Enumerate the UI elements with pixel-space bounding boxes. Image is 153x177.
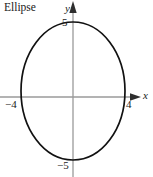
y-axis-tick-label-positive: 5: [62, 17, 68, 28]
x-axis-tick-label-positive: 4: [126, 99, 132, 110]
x-axis-tick-label-negative: −4: [5, 99, 17, 110]
y-axis-label: y: [65, 3, 70, 14]
y-axis-tick-label-negative: −5: [57, 160, 69, 171]
plot-canvas: [0, 0, 153, 177]
ellipse-figure: Ellipse y x 5 −5 −4 4: [0, 0, 153, 177]
x-axis-label: x: [143, 90, 148, 101]
page-title: Ellipse: [4, 2, 36, 14]
y-axis-arrowhead-icon: [69, 1, 76, 13]
